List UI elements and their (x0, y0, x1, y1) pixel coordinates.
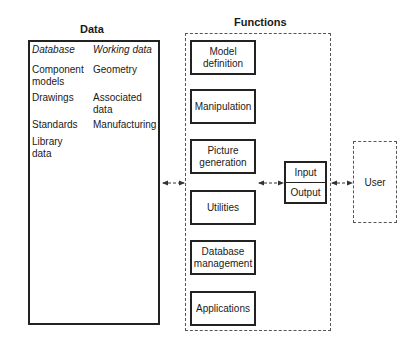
arrow-io-user (331, 181, 353, 186)
arrow-data-functions (162, 181, 185, 186)
arrow-functions-io (258, 181, 284, 186)
connector-arrows (0, 0, 419, 346)
